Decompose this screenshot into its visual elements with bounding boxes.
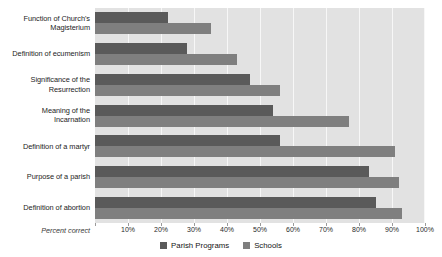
bar (95, 85, 280, 96)
bar (95, 23, 211, 34)
bar (95, 12, 168, 23)
x-tick-label: 30% (187, 226, 201, 233)
legend-swatch-icon (243, 242, 250, 249)
category-label: Significance of theResurrection (0, 75, 90, 94)
x-tick-label: 90% (385, 226, 399, 233)
bar (95, 74, 250, 85)
x-tick-label: 40% (220, 226, 234, 233)
category-label-line: Definition of ecumenism (0, 49, 90, 58)
bar (95, 105, 273, 116)
category-label-line: Incarnation (0, 115, 90, 124)
category-label: Purpose of a parish (0, 172, 90, 181)
category-label: Meaning of theIncarnation (0, 106, 90, 125)
bar (95, 166, 369, 177)
x-tick-label: 80% (352, 226, 366, 233)
x-tick-mark (95, 223, 96, 226)
category-label-line: Significance of the (0, 75, 90, 84)
bar-group (95, 105, 425, 129)
legend-entry: Parish Programs (160, 241, 229, 250)
category-label-line: Definition of abortion (0, 203, 90, 212)
category-label: Definition of a martyr (0, 142, 90, 151)
plot-area (95, 8, 425, 223)
legend-swatch-icon (160, 242, 167, 249)
category-label: Function of Church'sMagisterium (0, 14, 90, 33)
category-label-line: Definition of a martyr (0, 142, 90, 151)
bar-group (95, 12, 425, 36)
category-axis-labels: Function of Church'sMagisteriumDefinitio… (0, 8, 90, 223)
x-tick-label: 100% (416, 226, 434, 233)
x-tick-label: 60% (286, 226, 300, 233)
x-axis: 10%20%30%40%50%60%70%80%90%100% (95, 223, 425, 237)
category-label-line: Meaning of the (0, 106, 90, 115)
bar (95, 146, 395, 157)
legend-label: Parish Programs (171, 241, 229, 250)
bar (95, 135, 280, 146)
bar-group (95, 166, 425, 190)
bar-group (95, 74, 425, 98)
bar-group (95, 135, 425, 159)
category-label-line: Magisterium (0, 23, 90, 32)
bar (95, 43, 187, 54)
x-tick-label: 70% (319, 226, 333, 233)
category-label-line: Purpose of a parish (0, 172, 90, 181)
x-tick-label: 10% (121, 226, 135, 233)
bar (95, 177, 399, 188)
bar (95, 208, 402, 219)
bar-chart: Function of Church'sMagisteriumDefinitio… (0, 0, 442, 257)
category-label: Definition of ecumenism (0, 49, 90, 58)
bar (95, 116, 349, 127)
category-label-line: Resurrection (0, 85, 90, 94)
bar-group (95, 197, 425, 221)
legend-label: Schools (254, 241, 282, 250)
x-tick-label: 20% (154, 226, 168, 233)
category-label: Definition of abortion (0, 203, 90, 212)
x-axis-caption: Percent correct (0, 226, 90, 235)
bar (95, 54, 237, 65)
bar (95, 197, 376, 208)
chart-legend: Parish ProgramsSchools (0, 241, 442, 250)
legend-entry: Schools (243, 241, 282, 250)
bar-group (95, 43, 425, 67)
x-tick-label: 50% (253, 226, 267, 233)
category-label-line: Function of Church's (0, 14, 90, 23)
